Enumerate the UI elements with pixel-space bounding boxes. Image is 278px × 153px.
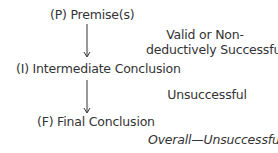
node-premise: (P) Premise(s) <box>50 7 134 22</box>
node-final-conclusion: (F) Final Conclusion <box>37 114 155 129</box>
overall-verdict: Overall—Unsuccessful <box>148 132 278 147</box>
edge-annotation-line2: deductively Successful <box>146 42 264 57</box>
edge-annotation-unsuccessful: Unsuccessful <box>160 87 254 102</box>
arrow-down-icon <box>82 24 92 58</box>
arrow-down-icon <box>82 80 92 114</box>
edge-annotation-line1: Valid or Non- <box>148 27 262 42</box>
node-intermediate-conclusion: (I) Intermediate Conclusion <box>16 61 181 76</box>
